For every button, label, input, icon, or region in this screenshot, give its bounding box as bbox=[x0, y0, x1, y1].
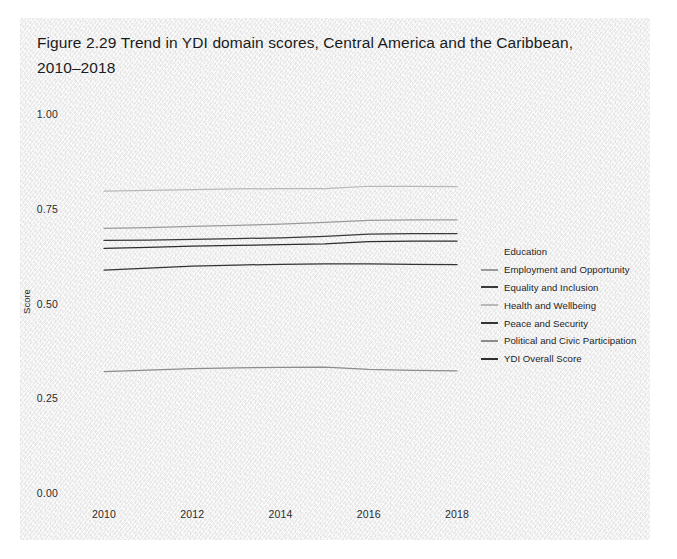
x-tick-label: 2012 bbox=[162, 508, 222, 520]
series-group bbox=[104, 186, 457, 371]
legend-item[interactable]: Employment and Opportunity bbox=[481, 261, 651, 279]
x-tick-label: 2018 bbox=[427, 508, 487, 520]
series-line bbox=[104, 186, 457, 191]
series-line bbox=[104, 234, 457, 241]
legend-item[interactable]: Education bbox=[481, 243, 651, 261]
y-tick-label: 0.50 bbox=[14, 298, 58, 310]
legend-line-swatch-icon bbox=[481, 304, 498, 306]
legend-item[interactable]: Equality and Inclusion bbox=[481, 279, 651, 297]
legend-item-label: Education bbox=[504, 246, 547, 257]
legend-line-swatch-icon bbox=[481, 340, 498, 342]
y-tick-label: 0.75 bbox=[14, 203, 58, 215]
legend-item[interactable]: YDI Overall Score bbox=[481, 350, 651, 368]
legend-line-swatch-icon bbox=[481, 322, 498, 324]
legend-item[interactable]: Health and Wellbeing bbox=[481, 296, 651, 314]
y-tick-label: 0.25 bbox=[14, 392, 58, 404]
legend-item-label: Health and Wellbeing bbox=[504, 300, 596, 311]
x-tick-label: 2014 bbox=[251, 508, 311, 520]
series-line bbox=[104, 220, 457, 228]
series-line bbox=[104, 367, 457, 372]
legend-item-label: YDI Overall Score bbox=[504, 353, 582, 364]
y-tick-label: 1.00 bbox=[14, 108, 58, 120]
figure-container: Figure 2.29 Trend in YDI domain scores, … bbox=[0, 0, 677, 559]
chart-legend: EducationEmployment and OpportunityEqual… bbox=[481, 243, 651, 368]
legend-line-swatch-icon bbox=[481, 286, 498, 288]
legend-item-label: Equality and Inclusion bbox=[504, 282, 598, 293]
series-line bbox=[104, 264, 457, 270]
legend-line-swatch-icon bbox=[481, 358, 498, 360]
series-line bbox=[104, 241, 457, 248]
legend-item[interactable]: Political and Civic Participation bbox=[481, 332, 651, 350]
legend-item-label: Employment and Opportunity bbox=[504, 264, 630, 275]
legend-line-swatch-icon bbox=[481, 251, 498, 253]
legend-item[interactable]: Peace and Security bbox=[481, 314, 651, 332]
legend-item-label: Political and Civic Participation bbox=[504, 335, 636, 346]
legend-line-swatch-icon bbox=[481, 269, 498, 271]
x-tick-label: 2016 bbox=[339, 508, 399, 520]
x-tick-label: 2010 bbox=[74, 508, 134, 520]
y-tick-label: 0.00 bbox=[14, 487, 58, 499]
legend-item-label: Peace and Security bbox=[504, 318, 588, 329]
